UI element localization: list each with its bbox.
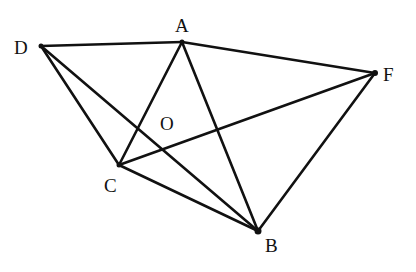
label-B: B <box>265 236 278 255</box>
figure-canvas <box>0 0 416 272</box>
label-C: C <box>104 176 117 195</box>
segment-AF <box>182 42 375 73</box>
segment-DB <box>41 46 258 231</box>
segment-DA <box>41 42 182 46</box>
label-O: O <box>160 114 174 133</box>
vertex-C <box>117 163 122 168</box>
segment-AB <box>182 42 258 231</box>
vertex-F <box>372 70 378 76</box>
segment-DC <box>41 46 119 165</box>
label-A: A <box>175 16 189 35</box>
vertex-D <box>39 44 44 49</box>
segment-CF <box>119 73 375 165</box>
vertex-B <box>255 228 262 235</box>
geometry-figure: D A F C B O <box>0 0 416 272</box>
label-F: F <box>383 65 394 84</box>
label-D: D <box>14 38 28 57</box>
vertex-A <box>180 40 185 45</box>
segment-FB <box>258 73 375 231</box>
segment-CB <box>119 165 258 231</box>
